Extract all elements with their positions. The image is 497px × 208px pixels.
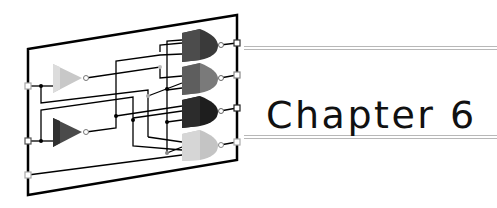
chapter-title: Chapter 6 [266,91,477,139]
top-rule [244,46,497,50]
